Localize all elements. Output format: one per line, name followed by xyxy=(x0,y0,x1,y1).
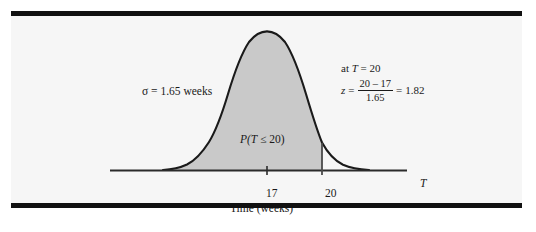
condition-line: at T = 20 xyxy=(341,63,424,74)
fraction-numerator: 20 – 17 xyxy=(358,78,394,90)
probability-suffix: ≤ 20) xyxy=(257,133,284,145)
fraction-denominator: 1.65 xyxy=(364,91,386,103)
normal-distribution-chart xyxy=(11,16,522,203)
equals-sign-first: = xyxy=(348,85,354,96)
sigma-annotation: σ = 1.65 weeks xyxy=(142,86,212,98)
z-value: 1.82 xyxy=(405,85,424,96)
x-tick-label-17: 17 xyxy=(266,188,278,200)
plot-panel: σ = 1.65 weeks P(T ≤ 20) at T = 20 z = 2… xyxy=(11,16,522,203)
axis-variable-label: T xyxy=(420,178,426,190)
condition-value: = 20 xyxy=(358,62,381,74)
x-tick-label-20: 20 xyxy=(325,188,337,200)
figure-container: σ = 1.65 weeks P(T ≤ 20) at T = 20 z = 2… xyxy=(0,0,536,232)
probability-annotation: P(T ≤ 20) xyxy=(240,134,285,146)
equals-sign-second: = xyxy=(396,85,402,96)
z-symbol: z xyxy=(341,85,345,96)
probability-prefix: P( xyxy=(240,133,251,145)
z-formula-line: z = 20 – 17 1.65 = 1.82 xyxy=(341,78,424,103)
z-score-annotation-block: at T = 20 z = 20 – 17 1.65 = 1.82 xyxy=(341,63,424,103)
z-fraction: 20 – 17 1.65 xyxy=(358,78,394,103)
bottom-rule-divider xyxy=(11,203,522,208)
condition-prefix: at xyxy=(341,62,352,74)
